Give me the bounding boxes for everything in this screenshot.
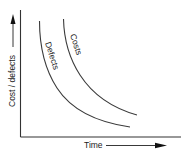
- defects-curve: [40, 21, 131, 127]
- x-axis-arrow-icon: [155, 143, 167, 148]
- x-axis-label: Time: [84, 140, 103, 150]
- defects-curve-label: Defects: [43, 41, 61, 72]
- chart: Cost / defects Time Defects Costs: [0, 0, 189, 157]
- y-axis-label-group: Cost / defects: [7, 14, 17, 107]
- x-axis-label-group: Time: [84, 140, 167, 150]
- y-axis-label: Cost / defects: [7, 55, 17, 107]
- y-axis-arrow-icon: [11, 14, 16, 24]
- costs-curve-label: Costs: [68, 33, 84, 57]
